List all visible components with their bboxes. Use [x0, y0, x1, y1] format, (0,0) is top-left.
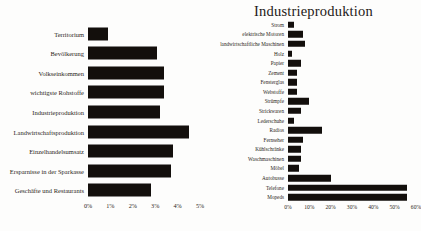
chart-title-industrieproduktion: Industrieproduktion [210, 3, 417, 20]
bar [88, 27, 108, 40]
bar-category-label: Papier [271, 60, 284, 66]
bar-category-label: Volkseinkommen [39, 69, 84, 76]
bar-category-label: Ersparnisse in der Sparkasse [10, 167, 84, 174]
bar-category-label: Fensterglas [260, 79, 284, 85]
bar-chart-left: TerritoriumBevölkerungVolkseinkommenwich… [0, 0, 210, 231]
x-axis-tick-label: 40% [368, 204, 378, 210]
bar [288, 22, 294, 29]
bar-row: Landwirtschaftsproduktion [88, 122, 200, 142]
bar [288, 41, 305, 48]
bar-row: Zement [288, 68, 416, 78]
bar [288, 117, 294, 124]
bar-row: Einzelhandelsumsatz [88, 141, 200, 161]
bar-category-label: Bevölkerung [50, 50, 84, 57]
x-axis-tick-label: 1% [106, 202, 114, 209]
bar-row: Lederschuhe [288, 116, 416, 126]
bar-category-label: Telefone [266, 185, 284, 191]
bar-category-label: Einzelhandelsumsatz [29, 148, 84, 155]
bar-row: Telefone [288, 183, 416, 193]
bar-category-label: Landwirtschaftsproduktion [14, 128, 84, 135]
bar [288, 50, 292, 57]
bar [88, 164, 171, 177]
bar-category-label: Holz [274, 51, 284, 57]
bar [288, 194, 407, 201]
x-axis-tick-label: 50% [390, 204, 400, 210]
bar-row: Industrieproduktion [88, 102, 200, 122]
bar [288, 127, 322, 134]
bar-category-label: Fernseher [264, 137, 284, 143]
bar [288, 175, 331, 182]
bar-row: wichtigste Rohstoffe [88, 83, 200, 103]
bar [88, 145, 173, 158]
bar-row: Strom [288, 20, 416, 30]
bar-chart-right: Industrieproduktion Stromelektrische Mot… [210, 0, 421, 231]
plot-area-left: TerritoriumBevölkerungVolkseinkommenwich… [88, 24, 200, 200]
bar-row: Fensterglas [288, 77, 416, 87]
bar-category-label: Waschmaschinen [248, 156, 284, 162]
bar [88, 47, 157, 60]
bar [288, 89, 297, 96]
x-axis-tick-label: 20% [326, 204, 336, 210]
bar [288, 108, 301, 115]
bar [288, 156, 301, 163]
figure-canvas: TerritoriumBevölkerungVolkseinkommenwich… [0, 0, 421, 231]
plot-area-right: Stromelektrische Motorenlandwirtschaftli… [288, 20, 416, 202]
bar [88, 66, 164, 79]
bar-row: Radios [288, 125, 416, 135]
bar-category-label: Kühlschränke [255, 146, 284, 152]
bar-row: Territorium [88, 24, 200, 44]
x-axis-tick-label: 5% [196, 202, 204, 209]
bar-category-label: Strom [271, 22, 284, 28]
x-axis-tick-label: 4% [173, 202, 181, 209]
bar-row: Volkseinkommen [88, 63, 200, 83]
bar-row: Autobusse [288, 173, 416, 183]
bar-row: Fernseher [288, 135, 416, 145]
bar-row: Webstoffe [288, 87, 416, 97]
bar-category-label: Radios [270, 127, 284, 133]
bar [288, 31, 303, 38]
bar-row: Strickwaren [288, 106, 416, 116]
bar-row: landwirtschaftliche Maschinen [288, 39, 416, 49]
bar [288, 79, 297, 86]
bar-row: Papier [288, 58, 416, 68]
bar-category-label: Geschäfte und Restaurants [15, 187, 84, 194]
bar [88, 125, 189, 138]
bar-category-label: Webstoffe [263, 89, 284, 95]
x-axis-tick-label: 0% [284, 204, 291, 210]
bar [88, 184, 151, 197]
bar [288, 69, 297, 76]
bar-row: Mopeds [288, 192, 416, 202]
bar-row: elektrische Motoren [288, 30, 416, 40]
bar [88, 86, 164, 99]
bar-row: Strümpfe [288, 97, 416, 107]
bar [88, 105, 160, 118]
bar-row: Möbel [288, 164, 416, 174]
x-axis-tick-label: 60% [411, 204, 421, 210]
bar [288, 184, 407, 191]
x-axis: 0%10%20%30%40%50%60% [288, 202, 416, 214]
bar-row: Waschmaschinen [288, 154, 416, 164]
bar-category-label: Möbel [270, 165, 284, 171]
bar [288, 98, 309, 105]
x-axis: 0%1%2%3%4%5% [88, 200, 200, 212]
bar-row: Ersparnisse in der Sparkasse [88, 161, 200, 181]
x-axis-tick-label: 3% [151, 202, 159, 209]
bar-category-label: Industrieproduktion [32, 108, 84, 115]
bar [288, 146, 301, 153]
x-axis-tick-label: 2% [129, 202, 137, 209]
bar-category-label: Strickwaren [259, 108, 284, 114]
bar-category-label: Territorium [54, 30, 84, 37]
bar-row: Holz [288, 49, 416, 59]
bar-category-label: Zement [268, 70, 284, 76]
bar-category-label: Strümpfe [265, 98, 284, 104]
bar-category-label: Autobusse [262, 175, 284, 181]
bar [288, 60, 301, 67]
bar-category-label: wichtigste Rohstoffe [30, 89, 84, 96]
x-axis-tick-label: 0% [84, 202, 92, 209]
bar-category-label: Mopeds [267, 194, 284, 200]
bar-row: Kühlschränke [288, 145, 416, 155]
bar-row: Bevölkerung [88, 44, 200, 64]
bar [288, 165, 299, 172]
bar-category-label: landwirtschaftliche Maschinen [220, 41, 284, 47]
x-axis-tick-label: 10% [304, 204, 314, 210]
